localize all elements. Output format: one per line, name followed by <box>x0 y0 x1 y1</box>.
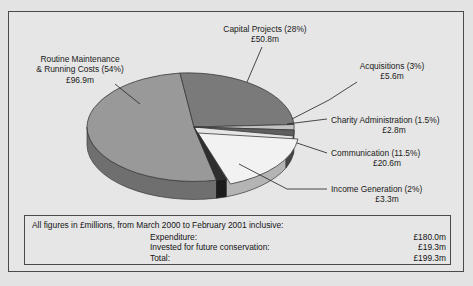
callout-routine-name-line2: & Running Costs (54%) <box>11 64 149 74</box>
callout-capital-projects: Capital Projects (28%) £50.8m <box>195 24 335 45</box>
footnote-row: Total: £199.3m <box>150 253 446 264</box>
callout-communication-value: £20.6m <box>331 158 443 168</box>
callout-acquisitions-name: Acquisitions (3%) <box>327 61 457 71</box>
leader-routine <box>115 84 140 104</box>
callout-income-value: £3.3m <box>331 194 443 204</box>
footnote-label: Total: <box>150 253 170 264</box>
footnote-value: £199.3m <box>394 253 446 264</box>
callout-routine-name-line1: Routine Maintenance <box>11 54 149 64</box>
callout-communication-name: Communication (11.5%) <box>331 148 463 158</box>
leader-income-b <box>239 164 287 189</box>
figure-frame: Capital Projects (28%) £50.8m Routine Ma… <box>8 11 464 272</box>
footnote-intro: All figures in £millions, from March 200… <box>32 220 443 231</box>
callout-acquisitions-value: £5.6m <box>327 71 457 81</box>
leader-comm <box>297 143 327 153</box>
footnote-label: Invested for future conservation: <box>150 242 270 253</box>
footnote-rows: Expenditure: £180.0m Invested for future… <box>150 232 446 264</box>
callout-communication: Communication (11.5%) £20.6m <box>331 148 463 169</box>
callout-charity-value: £2.8m <box>331 125 457 135</box>
footnote-label: Expenditure: <box>150 232 197 243</box>
leader-charity <box>287 119 327 124</box>
leader-capital <box>247 47 262 82</box>
footnote-row: Invested for future conservation: £19.3m <box>150 242 446 253</box>
callout-capital-name: Capital Projects (28%) <box>195 24 335 34</box>
callout-charity-name: Charity Administration (1.5%) <box>331 115 463 125</box>
callout-routine-maintenance: Routine Maintenance & Running Costs (54%… <box>11 54 149 85</box>
footnote-value: £180.0m <box>394 232 446 243</box>
chart-stage: Capital Projects (28%) £50.8m Routine Ma… <box>9 12 465 273</box>
callout-acquisitions: Acquisitions (3%) £5.6m <box>327 61 457 82</box>
footnote-row: Expenditure: £180.0m <box>150 232 446 243</box>
callout-income-name: Income Generation (2%) <box>331 184 463 194</box>
chart-figure: Capital Projects (28%) £50.8m Routine Ma… <box>0 0 473 286</box>
callout-charity-administration: Charity Administration (1.5%) £2.8m <box>331 115 463 136</box>
leader-acq-a <box>329 82 357 100</box>
callout-routine-value: £96.9m <box>11 75 149 85</box>
callout-income-generation: Income Generation (2%) £3.3m <box>331 184 463 205</box>
footnote-value: £19.3m <box>394 242 446 253</box>
callout-capital-value: £50.8m <box>195 34 335 44</box>
leader-acq-b <box>292 100 329 119</box>
footnote-box: All figures in £millions, from March 200… <box>24 215 451 265</box>
